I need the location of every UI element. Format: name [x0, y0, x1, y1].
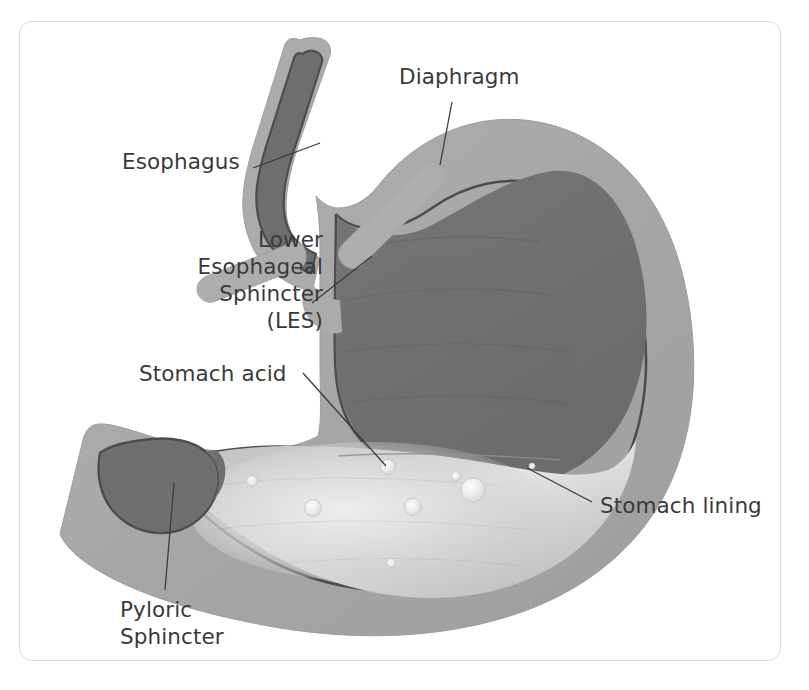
stomach-anatomy-illustration [0, 0, 809, 690]
acid-bubble [305, 500, 322, 517]
acid-glow [190, 442, 554, 582]
acid-bubble [461, 478, 485, 502]
acid-bubble [247, 476, 258, 487]
acid-bubble [405, 499, 422, 516]
acid-bubble [529, 463, 535, 469]
label-stomach-acid: Stomach acid [139, 360, 286, 387]
acid-bubble [387, 559, 396, 568]
label-pyloric-sphincter: Pyloric Sphincter [120, 596, 224, 650]
figure-root: Diaphragm Esophagus Lower Esophageal Sph… [0, 0, 809, 690]
label-stomach-lining: Stomach lining [600, 492, 762, 519]
label-esophagus: Esophagus [122, 148, 240, 175]
label-lower-esophageal-sphincter: Lower Esophageal Sphincter (LES) [178, 226, 323, 334]
label-diaphragm: Diaphragm [399, 63, 519, 90]
acid-bubble [452, 472, 461, 481]
